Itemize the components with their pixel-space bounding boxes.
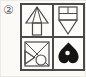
- cell-up-arrow: [21, 4, 53, 37]
- option-number-label: ②: [3, 3, 14, 17]
- arrow-head-triangle: [26, 7, 48, 23]
- heart-hole-dot: [65, 51, 70, 56]
- square-triangle-circle-icon: [24, 41, 50, 67]
- figure-grid: [20, 3, 85, 71]
- cell-square-triangle-circle: [21, 37, 53, 70]
- down-triangle: [59, 20, 77, 34]
- up-arrow-icon: [24, 6, 50, 36]
- puzzle-option-panel: ②: [0, 0, 86, 77]
- cell-split-square-down-triangle: [53, 4, 85, 37]
- split-square-down-triangle-icon: [56, 6, 80, 36]
- inverted-heart-icon: [57, 41, 80, 66]
- arrow-shaft-rect: [32, 23, 41, 35]
- circle-shape: [36, 55, 46, 65]
- cell-inverted-heart: [53, 37, 85, 70]
